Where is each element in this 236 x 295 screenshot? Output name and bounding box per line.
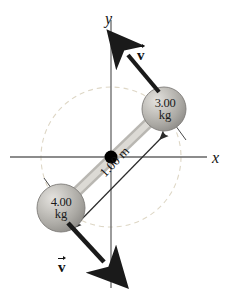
velocity-lower-label: v [58,256,66,275]
vector-arrow-overbar-upper [137,44,145,49]
velocity-lower-symbol: v [58,260,66,275]
mass-upper-label: 3.00 kg [145,97,185,121]
vector-arrow-overbar-lower [58,256,66,261]
physics-diagram: y x 3.00 kg 4.00 kg v v 1.00 m [0,0,236,295]
velocity-upper-symbol: v [137,48,145,63]
velocity-upper-label: v [137,44,145,63]
mass-lower-label: 4.00 kg [41,196,81,220]
mass-upper-unit: kg [145,109,185,122]
y-axis-label: y [105,11,112,27]
mass-lower-unit: kg [41,208,81,221]
x-axis-label: x [212,150,219,166]
velocity-vector-lower [68,223,104,262]
